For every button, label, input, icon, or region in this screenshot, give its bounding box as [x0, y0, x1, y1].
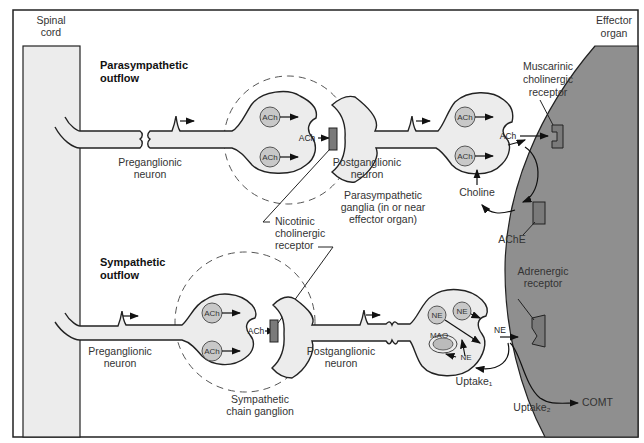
nicotinic-label-3: receptor [275, 239, 314, 251]
symp-preganglionic-label-2: neuron [104, 357, 137, 369]
mao-label: MAO [430, 331, 448, 340]
ache-enzyme-marker [533, 202, 545, 224]
symp-postganglionic-neuron: NE NE MAO NE NE Postganglionic neuron [270, 290, 518, 378]
ne-release: NE [494, 325, 506, 335]
ach-release: ACh [299, 133, 316, 143]
ach-release: ACh [248, 326, 265, 336]
svg-text:ACh: ACh [204, 347, 220, 356]
symp-chain-label-2: chain ganglion [226, 405, 294, 417]
choline-return-arrow-icon [482, 205, 515, 213]
muscarinic-label-3: receptor [529, 86, 568, 98]
ach-release: ACh [500, 131, 517, 141]
parasympathetic-outflow-title-1: Parasympathetic [100, 59, 188, 71]
sympathetic-outflow-title-1: Sympathetic [100, 256, 165, 268]
effector-organ-label-1: Effector [596, 14, 632, 26]
para-preganglionic-label-2: neuron [134, 168, 167, 180]
parasympathetic-outflow-title-2: outflow [100, 72, 140, 84]
para-postganglionic-neuron: ACh ACh ACh Postganglionic neuron [329, 93, 548, 182]
para-ganglia-label-2: ganglia (in or near [341, 201, 426, 213]
symp-postganglionic-label-1: Postganglionic [307, 345, 375, 357]
svg-text:NE: NE [456, 307, 467, 316]
para-preganglionic-neuron: ACh ACh ACh Preganglionic neuron [55, 92, 329, 180]
uptake2-label: Uptake₂ [513, 401, 550, 413]
nicotinic-receptor-marker [270, 320, 278, 342]
symp-postganglionic-label-2: neuron [325, 357, 358, 369]
para-ganglia-label-3: effector organ) [349, 213, 417, 225]
adrenergic-label-2: receptor [524, 277, 563, 289]
svg-text:ACh: ACh [262, 153, 278, 162]
spinal-cord: Spinal cord [23, 14, 80, 437]
nicotinic-label-1: Nicotinic [275, 215, 315, 227]
sympathetic-outflow-title-2: outflow [100, 269, 140, 281]
symp-preganglionic-neuron: ACh ACh ACh Preganglionic neuron [55, 294, 275, 369]
symp-chain-label-1: Sympathetic [231, 393, 289, 405]
ne-cytoplasmic: NE [460, 353, 471, 362]
effector-organ-label-2: organ [601, 27, 628, 39]
svg-text:ACh: ACh [262, 113, 278, 122]
spinal-cord-label-2: cord [41, 26, 62, 38]
muscarinic-label-1: Muscarinic [523, 60, 573, 72]
svg-text:ACh: ACh [204, 309, 220, 318]
autonomic-outflow-diagram: Spinal cord Effector organ Parasympathet… [0, 0, 644, 443]
nicotinic-receptor-marker [329, 128, 337, 150]
para-postganglionic-label-2: neuron [351, 168, 384, 180]
para-preganglionic-label-1: Preganglionic [118, 156, 182, 168]
adrenergic-label-1: Adrenergic [518, 265, 569, 277]
svg-text:ACh: ACh [457, 152, 473, 161]
symp-preganglionic-label-1: Preganglionic [88, 345, 152, 357]
para-ganglia-label-1: Parasympathetic [344, 189, 422, 201]
para-postganglionic-label-1: Postganglionic [333, 156, 401, 168]
spinal-cord-label-1: Spinal [36, 14, 65, 26]
muscarinic-label-2: cholinergic [523, 73, 573, 85]
nicotinic-label-2: cholinergic [275, 227, 325, 239]
comt-label: COMT [582, 396, 613, 408]
ache-label: AChE [498, 233, 525, 245]
svg-text:ACh: ACh [457, 113, 473, 122]
svg-text:NE: NE [431, 311, 442, 320]
choline-label: Choline [459, 186, 495, 198]
uptake1-label: Uptake₁ [456, 375, 493, 387]
